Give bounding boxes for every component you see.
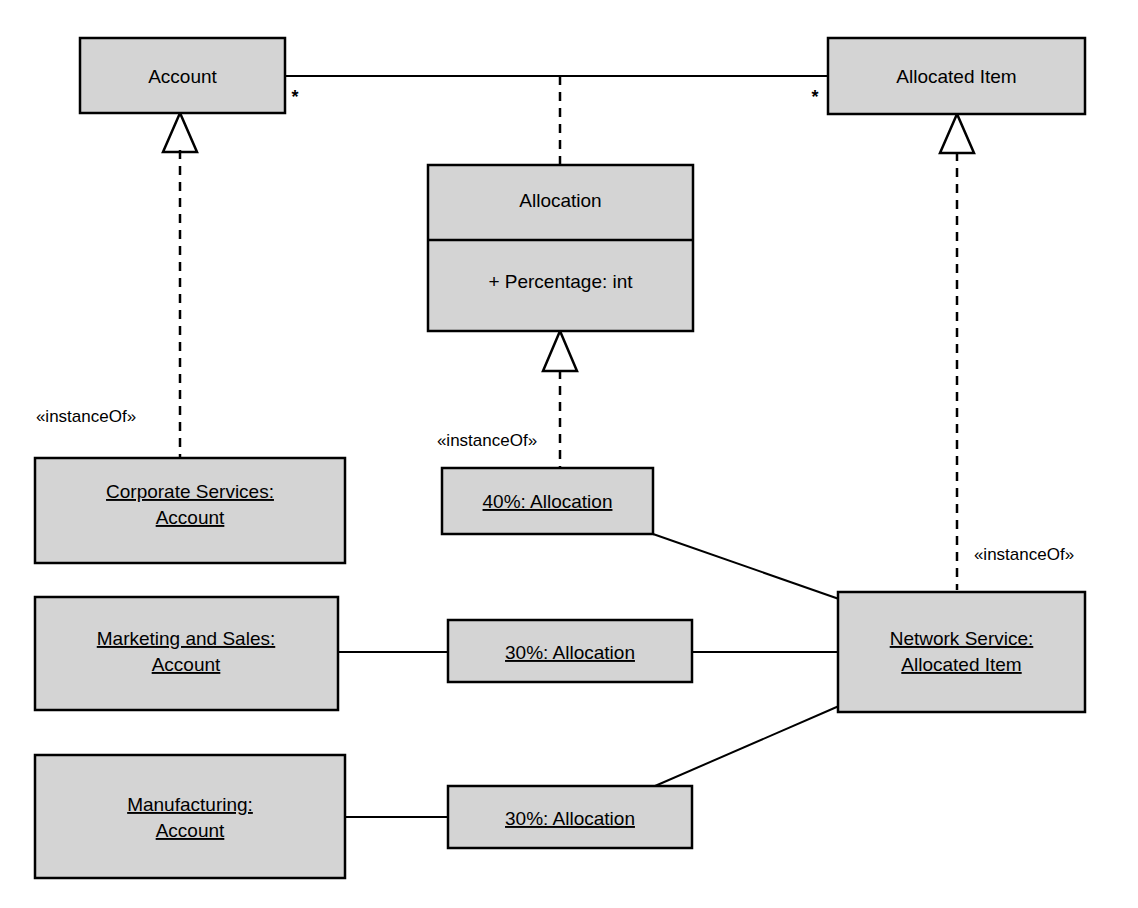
stereotype-label-instanceof-account: «instanceOf» [36,407,136,426]
uml-svg-surface: Account * Allocated Item * Allocation + … [0,0,1138,908]
link-allocation40-network-service [653,534,839,599]
object-box-manufacturing[interactable]: Manufacturing: Account [35,755,345,878]
object-name-network-service-line2: Allocated Item [901,654,1021,675]
uml-diagram-canvas: Account * Allocated Item * Allocation + … [0,0,1138,908]
object-name-network-service-line1: Network Service: [890,628,1034,649]
class-name-allocation: Allocation [519,190,601,211]
class-box-allocated-item[interactable]: Allocated Item [828,38,1085,114]
generalization-arrowhead-icon-allocation [543,331,577,371]
object-name-allocation-30-middle: 30%: Allocation [505,642,635,663]
multiplicity-allocated-item-end: * [811,87,818,107]
object-box-allocation-30-middle[interactable]: 30%: Allocation [448,620,692,682]
object-name-allocation-40: 40%: Allocation [483,491,613,512]
multiplicity-account-end: * [291,87,298,107]
object-box-network-service[interactable]: Network Service: Allocated Item [838,592,1085,712]
object-name-allocation-30-bottom: 30%: Allocation [505,808,635,829]
object-box-allocation-30-bottom[interactable]: 30%: Allocation [448,786,692,848]
stereotype-label-instanceof-allocation: «instanceOf» [437,431,537,450]
object-name-corporate-services-line1: Corporate Services: [106,481,274,502]
object-box-network-service-shape [838,592,1085,712]
object-box-marketing-and-sales[interactable]: Marketing and Sales: Account [35,597,338,710]
object-name-manufacturing-line2: Account [156,820,225,841]
class-box-account[interactable]: Account [80,38,285,113]
link-allocation30bottom-network-service [655,706,839,786]
class-box-allocation[interactable]: Allocation + Percentage: int [428,165,693,331]
object-box-allocation-40[interactable]: 40%: Allocation [442,468,653,534]
class-name-account: Account [148,66,217,87]
class-name-allocated-item: Allocated Item [896,66,1016,87]
generalization-arrowhead-icon-allocated-item [940,114,974,153]
object-box-corporate-services[interactable]: Corporate Services: Account [35,458,345,563]
class-attribute-percentage: + Percentage: int [488,271,633,292]
object-name-marketing-and-sales-line2: Account [152,654,221,675]
object-name-manufacturing-line1: Manufacturing: [127,794,253,815]
object-name-corporate-services-line2: Account [156,507,225,528]
object-box-manufacturing-shape [35,755,345,878]
generalization-arrowhead-icon-account [163,113,197,152]
object-name-marketing-and-sales-line1: Marketing and Sales: [97,628,276,649]
stereotype-label-instanceof-allocated-item: «instanceOf» [974,545,1074,564]
